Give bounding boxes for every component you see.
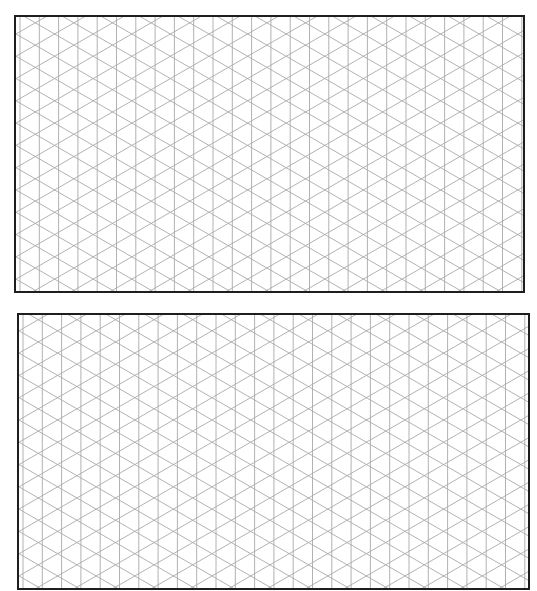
grid-frame-bottom [17, 313, 530, 590]
isometric-grid-page [0, 0, 537, 591]
grid-frame-top [14, 15, 525, 293]
isometric-grid-pattern [16, 17, 525, 293]
isometric-grid-pattern [19, 315, 530, 590]
